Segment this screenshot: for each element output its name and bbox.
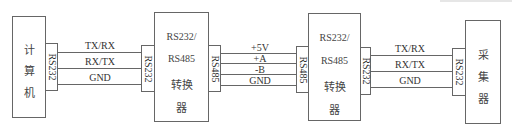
link1-label-1: TX/RX	[70, 40, 130, 51]
link3-line-1	[371, 55, 453, 56]
converter2-line-3: 转换	[309, 78, 360, 94]
converter2-box: RS232/ RS485 转换 器	[308, 13, 361, 121]
link3-label-3: GND	[380, 75, 440, 86]
converter1-line-3: 转换	[155, 76, 208, 92]
converter2-left-port-label: RS485	[297, 56, 308, 83]
converter2-line-4: 器	[309, 101, 360, 117]
collector-box: 采 集 器	[465, 20, 501, 124]
converter2-line-2: RS485	[309, 55, 360, 66]
link2-label-4: GND	[230, 75, 290, 86]
collector-rs232-port: RS232	[452, 48, 466, 96]
link3-label-2: RX/TX	[380, 59, 440, 70]
converter2-line-1: RS232/	[309, 32, 360, 43]
converter1-rs232-port: RS232	[141, 45, 155, 92]
computer-char-2: 算	[13, 62, 45, 78]
link3-line-3	[371, 87, 453, 88]
converter2-rs232-port: RS232	[360, 47, 371, 95]
collector-char-3: 器	[466, 90, 500, 106]
computer-rs232-port: RS232	[45, 43, 58, 91]
converter1-rs485-port: RS485	[208, 45, 221, 92]
converter1-left-port-label: RS232	[143, 55, 154, 82]
link2-label-2: +A	[230, 53, 290, 64]
converter1-line-1: RS232/	[155, 31, 208, 42]
link1-label-3: GND	[70, 72, 130, 83]
link2-label-3: -B	[230, 64, 290, 75]
computer-box: 计 算 机	[12, 16, 46, 118]
computer-char-1: 计	[13, 41, 45, 57]
link2-label-1: +5V	[230, 42, 290, 53]
converter1-line-2: RS485	[155, 53, 208, 64]
link3-label-1: TX/RX	[380, 43, 440, 54]
collector-port-label: RS232	[454, 58, 465, 85]
top-edge-shade	[440, 0, 512, 2]
link3-line-2	[371, 71, 453, 72]
computer-char-3: 机	[13, 84, 45, 100]
computer-port-label: RS232	[46, 53, 57, 80]
converter1-line-4: 器	[155, 99, 208, 115]
link1-label-2: RX/TX	[70, 56, 130, 67]
link1-line-3	[58, 84, 141, 85]
converter2-right-port-label: RS232	[360, 57, 371, 84]
collector-char-2: 集	[466, 68, 500, 84]
converter1-right-port-label: RS485	[209, 55, 220, 82]
link1-line-2	[58, 68, 141, 69]
collector-char-1: 采	[466, 46, 500, 62]
converter1-box: RS232/ RS485 转换 器	[154, 12, 209, 122]
link1-line-1	[58, 52, 141, 53]
